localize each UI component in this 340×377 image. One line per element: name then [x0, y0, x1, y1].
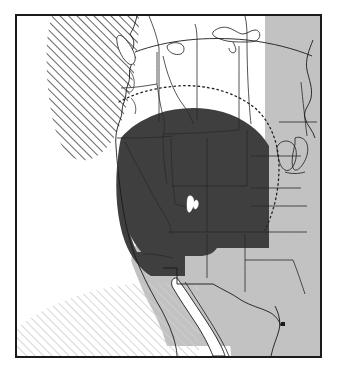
map-canvas — [17, 16, 320, 356]
region-secondary-east-strip — [265, 16, 320, 356]
map-frame — [15, 14, 322, 358]
region-core-range — [117, 108, 269, 256]
map-figure — [0, 0, 340, 377]
marker-gulf-bay — [281, 322, 285, 326]
